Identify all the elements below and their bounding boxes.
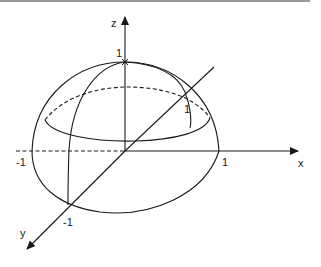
hemisphere-diagram: z 1 x 1 -1 y -1 1	[0, 0, 321, 267]
x-tick-1: 1	[222, 156, 228, 168]
x-tick-neg1: -1	[16, 156, 26, 168]
z-tick-1: 1	[116, 47, 122, 59]
y-tick-neg1: -1	[63, 216, 73, 228]
meridian-right	[125, 62, 191, 128]
y-axis-label: y	[20, 227, 26, 239]
base-ellipse-front	[32, 151, 219, 213]
x-axis-label: x	[298, 157, 304, 169]
y-tick-1: 1	[184, 103, 190, 115]
y-axis	[27, 151, 125, 249]
z-axis-label: z	[111, 17, 117, 29]
meridian-front	[68, 62, 125, 205]
